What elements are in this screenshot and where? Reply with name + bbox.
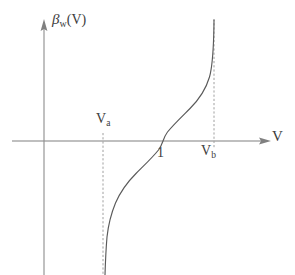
figure-container: βw(V) V Va Vb 1 bbox=[0, 0, 295, 275]
asymptote-label-vb-subscript: b bbox=[211, 150, 216, 160]
asymptote-label-va-main: V bbox=[96, 111, 106, 126]
zero-crossing-tick-label: 1 bbox=[157, 146, 164, 160]
y-axis-label-subscript: w bbox=[59, 18, 66, 29]
y-axis-label-argument: (V) bbox=[67, 12, 86, 27]
asymptote-label-vb-main: V bbox=[201, 143, 211, 158]
x-axis-label: V bbox=[272, 129, 283, 144]
function-plot-svg bbox=[0, 0, 295, 275]
y-axis-label: βw(V) bbox=[52, 12, 86, 29]
asymptote-label-vb: Vb bbox=[201, 144, 216, 161]
asymptote-label-va-subscript: a bbox=[106, 118, 110, 128]
asymptote-label-va: Va bbox=[96, 112, 110, 129]
